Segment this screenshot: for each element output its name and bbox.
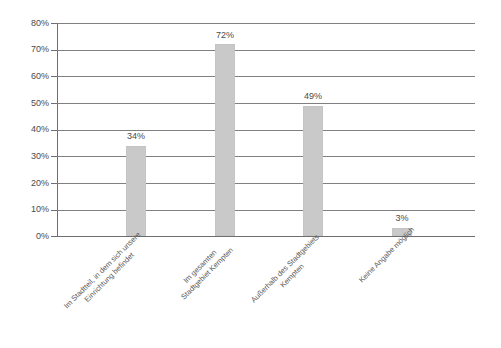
gridline-50 <box>57 103 475 104</box>
bar-value-label: 3% <box>382 213 422 224</box>
category-label-2: Außerhalb des Stadtgebiets Kempten <box>249 233 328 312</box>
category-label-line: Außerhalb des Stadtgebiets <box>249 233 321 305</box>
plot-area: 34% 72% 49% 3% <box>57 23 475 236</box>
bar-im-stadtteil <box>126 146 146 237</box>
gridline-10 <box>57 210 475 211</box>
y-tick-label: 50% <box>3 99 49 108</box>
gridline-70 <box>57 50 475 51</box>
category-label-0: Im Stadtteil, in dem sich unsere Einrich… <box>62 230 149 317</box>
category-label-line: Im Stadtteil, in dem sich unsere <box>62 230 143 311</box>
bar-im-gesamten-stadtgebiet <box>215 44 235 236</box>
y-tick-label: 30% <box>3 152 49 161</box>
bar-chart: 80% 70% 60% 50% 40% 30% 20% 10% 0% 34% <box>0 0 501 348</box>
gridline-30 <box>57 156 475 157</box>
gridline-80 <box>57 23 475 24</box>
category-label-line: Kempten <box>256 239 328 311</box>
y-tick-label: 20% <box>3 179 49 188</box>
x-axis-category-labels: Im Stadtteil, in dem sich unsere Einrich… <box>0 236 501 348</box>
y-tick-label: 80% <box>3 19 49 28</box>
y-tick-label: 60% <box>3 72 49 81</box>
category-label-line: Einrichtung befindet <box>69 237 150 318</box>
gridline-60 <box>57 76 475 77</box>
y-tick-label: 40% <box>3 125 49 134</box>
bar-ausserhalb-stadtgebiet <box>303 106 323 237</box>
bar-value-label: 49% <box>293 91 333 102</box>
bar-value-label: 34% <box>116 131 156 142</box>
bar-value-label: 72% <box>205 30 245 41</box>
y-tick-label: 10% <box>3 205 49 214</box>
gridline-20 <box>57 183 475 184</box>
category-label-1: Im gesamten Stadtgebiet Kempten <box>172 238 235 301</box>
y-tick-label: 70% <box>3 45 49 54</box>
